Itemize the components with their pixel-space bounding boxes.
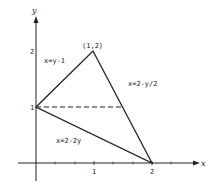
x-tick-1: 1: [92, 168, 96, 176]
x-axis: [18, 161, 200, 166]
y-tick-2: 2: [30, 48, 34, 56]
x-axis-label: x: [201, 159, 206, 168]
y-tick-1: 1: [30, 104, 34, 112]
apex-label: (1,2): [82, 42, 103, 50]
y-axis-label: y: [31, 6, 37, 15]
region-diagram: y x 1 2 1 2 (1,2) x=y-1 x=2-y/2 x=2-2y: [0, 0, 215, 196]
y-axis: [34, 16, 39, 181]
curve-label-x-eq-2-minus-2y: x=2-2y: [56, 137, 81, 145]
y-axis-arrow-icon: [34, 16, 39, 23]
x-axis-arrow-icon: [193, 161, 200, 166]
curve-label-x-eq-2-minus-y-over-2: x=2-y/2: [128, 80, 158, 88]
x-tick-2: 2: [150, 168, 154, 176]
curve-label-x-eq-y-minus-1: x=y-1: [44, 57, 65, 65]
